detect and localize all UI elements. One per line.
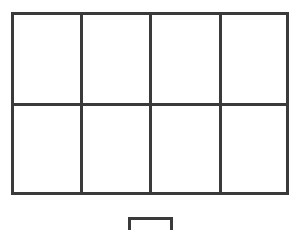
small-box	[128, 217, 173, 230]
grid-divider-horizontal	[14, 103, 286, 106]
grid-rectangle	[11, 12, 289, 195]
